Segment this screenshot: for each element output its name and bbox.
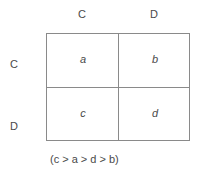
cell-cc: a <box>47 53 119 65</box>
payoff-matrix: a b c d <box>46 33 190 141</box>
row-header-d: D <box>8 120 20 132</box>
column-header-c: C <box>76 8 88 20</box>
column-header-d: D <box>148 8 160 20</box>
row-header-c: C <box>8 58 20 70</box>
horizontal-divider <box>47 87 189 88</box>
cell-dd: d <box>119 107 191 119</box>
cell-cd: b <box>119 53 191 65</box>
cell-dc: c <box>47 107 119 119</box>
ordering-caption: (c > a > d > b) <box>50 153 119 165</box>
